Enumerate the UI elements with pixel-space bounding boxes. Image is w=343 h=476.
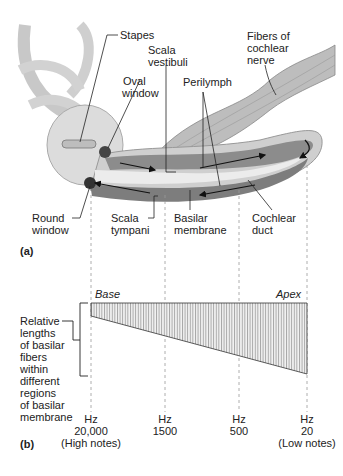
- label-basilar-2: membrane: [174, 224, 227, 236]
- label-oval-1: Oval: [123, 75, 146, 87]
- panel-b-letter: (b): [20, 438, 34, 450]
- label-round-1: Round: [32, 212, 64, 224]
- label-basilar-1: Basilar: [174, 212, 208, 224]
- side-label: Relative lengths of basilar fibers withi…: [20, 315, 73, 423]
- label-tympani-1: Scala: [111, 212, 139, 224]
- label-fibers-2: cochlear: [247, 42, 289, 54]
- label-scala-vestibuli-2: vestibuli: [148, 56, 188, 68]
- tick-unit: Hz: [274, 413, 340, 425]
- label-fibers-3: nerve: [247, 54, 275, 66]
- tick-value: 1500: [145, 425, 185, 437]
- side-label-line: lengths: [20, 327, 73, 339]
- label-scala-vestibuli-1: Scala: [148, 44, 176, 56]
- label-oval-2: window: [122, 87, 159, 99]
- tick-value: 20: [274, 425, 340, 437]
- side-label-line: of basilar: [20, 339, 73, 351]
- side-label-line: fibers: [20, 351, 73, 363]
- tick-unit: Hz: [145, 413, 185, 425]
- tick-unit: Hz: [61, 413, 121, 425]
- label-apex: Apex: [276, 288, 301, 300]
- label-base: Base: [95, 288, 120, 300]
- label-round-2: window: [32, 224, 69, 236]
- tick-note: (High notes): [61, 437, 121, 449]
- label-stapes: Stapes: [120, 29, 154, 41]
- side-label-line: different: [20, 375, 73, 387]
- label-duct-2: duct: [252, 224, 273, 236]
- panel-a-letter: (a): [20, 245, 33, 257]
- tick-1500: Hz 1500: [145, 413, 185, 437]
- tick-20: Hz 20 (Low notes): [274, 413, 340, 449]
- label-tympani-2: tympani: [111, 224, 150, 236]
- tick-20000: Hz 20,000 (High notes): [61, 413, 121, 449]
- label-perilymph: Perilymph: [183, 76, 232, 88]
- side-label-line: of basilar: [20, 399, 73, 411]
- tick-note: (Low notes): [274, 437, 340, 449]
- side-label-line: within: [20, 363, 73, 375]
- side-label-line: regions: [20, 387, 73, 399]
- basilar-fiber-length-wedge: [91, 303, 307, 374]
- tick-500: Hz 500: [219, 413, 259, 437]
- side-label-line: Relative: [20, 315, 73, 327]
- label-duct-1: Cochlear: [252, 212, 296, 224]
- label-fibers-1: Fibers of: [247, 30, 290, 42]
- tick-value: 20,000: [61, 425, 121, 437]
- tick-value: 500: [219, 425, 259, 437]
- tick-unit: Hz: [219, 413, 259, 425]
